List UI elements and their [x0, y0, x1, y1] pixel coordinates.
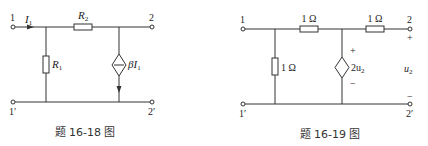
figure-caption: 题 16-19 图 — [300, 128, 361, 141]
resistor-r2-label: R2 — [77, 9, 89, 23]
resistor-r1-label: R1 — [51, 58, 63, 72]
dependent-source-label: 2u2 — [351, 62, 365, 75]
output-voltage-label: u2 — [404, 63, 413, 76]
current-label: I1 — [24, 13, 33, 27]
resistor-series-1 — [300, 26, 318, 32]
terminal-1-prime-label: 1′ — [239, 108, 246, 119]
terminal-2-prime — [150, 100, 154, 104]
resistor-series-2-label: 1 Ω — [368, 13, 383, 24]
resistor-series-1-label: 1 Ω — [302, 13, 317, 24]
terminal-1-prime — [241, 102, 245, 106]
dependent-current-source — [112, 54, 126, 93]
dep-source-minus: − — [350, 78, 356, 89]
terminal-1-prime-label: 1′ — [9, 106, 16, 117]
resistor-shunt — [272, 58, 278, 75]
terminal-2-prime — [408, 102, 412, 106]
wires — [245, 29, 408, 104]
terminal-1-label: 1 — [10, 12, 15, 23]
output-minus: − — [407, 91, 413, 102]
terminal-2-prime-label: 2′ — [406, 108, 413, 119]
resistor-series-2 — [366, 26, 384, 32]
output-plus: + — [407, 32, 413, 43]
dependent-voltage-source — [335, 57, 349, 78]
figure-caption: 题 16-18 图 — [55, 126, 116, 139]
circuit-figure-16-19: 1 Ω 1 Ω 1 Ω + − 2u2 1 2 1′ 2′ + − u2 题 1… — [239, 13, 413, 141]
terminal-2-prime-label: 2′ — [148, 106, 155, 117]
resistor-shunt-label: 1 Ω — [281, 62, 296, 73]
circuit-figure-16-18: I1 R2 R1 βI1 1 2 1′ 2′ 题 16-18 图 — [9, 9, 155, 139]
terminal-2-label: 2 — [407, 14, 412, 25]
terminal-1 — [241, 27, 245, 31]
dep-source-plus: + — [350, 45, 356, 56]
resistor-r2 — [74, 24, 92, 30]
resistor-r1 — [43, 56, 49, 73]
arrow-down-icon — [117, 86, 122, 93]
terminal-2 — [408, 27, 412, 31]
terminal-1-prime — [11, 100, 15, 104]
dependent-source-label: βI1 — [127, 58, 141, 72]
terminal-2 — [150, 25, 154, 29]
terminal-1-label: 1 — [240, 14, 245, 25]
terminal-1 — [11, 25, 15, 29]
terminal-2-label: 2 — [149, 12, 154, 23]
